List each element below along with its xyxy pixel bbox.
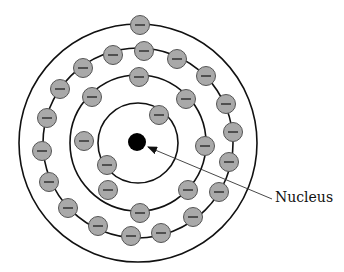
- electron-shell-3: [104, 46, 123, 65]
- electron-shell-3: [220, 153, 239, 172]
- electron-shell-2: [196, 137, 215, 156]
- electron-shell-3: [197, 67, 216, 86]
- electron-shell-3: [59, 199, 78, 218]
- electron-shell-3: [210, 183, 229, 202]
- electron-shell-3: [184, 208, 203, 227]
- electron-shell-3: [168, 50, 187, 69]
- electron-shell-3: [224, 123, 243, 142]
- atom-diagram: [0, 0, 344, 272]
- electron-shell-3: [74, 59, 93, 78]
- electron-shell-2: [179, 181, 198, 200]
- electron-shell-2: [99, 181, 118, 200]
- electron-shell-1: [98, 156, 117, 175]
- electron-shell-2: [177, 90, 196, 109]
- electron-shell-3: [89, 217, 108, 236]
- electron-shell-3: [51, 80, 70, 99]
- electron-shell-2: [83, 88, 102, 107]
- nucleus: [128, 133, 146, 151]
- electron-shell-2: [75, 132, 94, 151]
- electron-shell-2: [131, 204, 150, 223]
- nucleus-label: Nucleus: [275, 189, 333, 205]
- electron-shell-3: [38, 109, 57, 128]
- electron-shell-2: [130, 68, 149, 87]
- electron-shell-3: [152, 224, 171, 243]
- electron-shell-3: [122, 227, 141, 246]
- electron-shell-4: [131, 16, 150, 35]
- electron-shell-3: [40, 173, 59, 192]
- electron-shell-3: [33, 142, 52, 161]
- electron-shell-1: [150, 106, 169, 125]
- electron-shell-3: [135, 42, 154, 61]
- electron-shell-3: [217, 95, 236, 114]
